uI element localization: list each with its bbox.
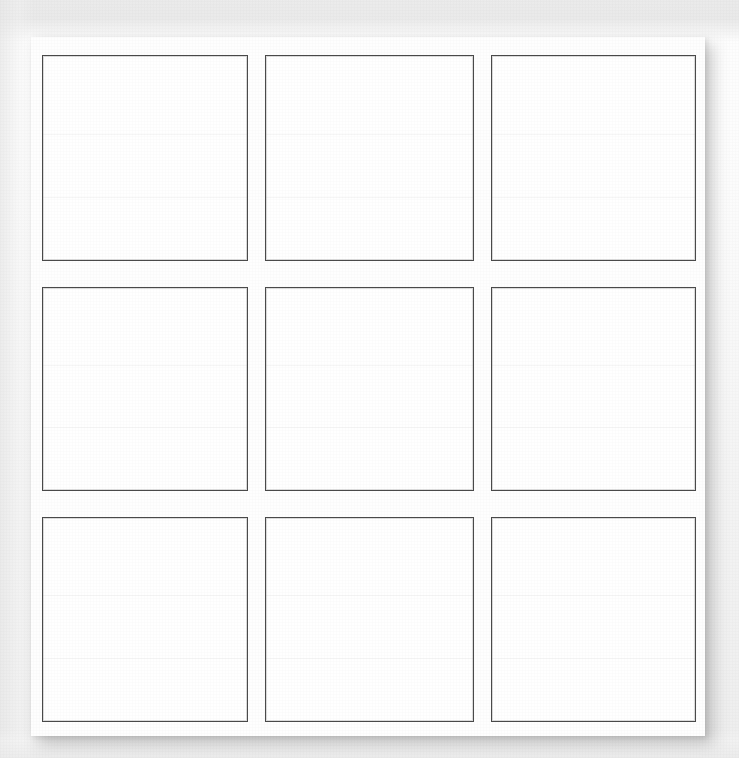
grid-cell-r1c3[interactable] xyxy=(491,55,696,261)
grid-cell-text xyxy=(272,62,467,254)
grid-3x3 xyxy=(42,55,696,722)
scanned-page: •• xyxy=(0,0,739,758)
grid-cell-r3c1[interactable] xyxy=(42,517,248,722)
grid-cell-r1c2[interactable] xyxy=(265,55,474,261)
grid-cell-r2c2[interactable] xyxy=(265,287,474,491)
grid-cell-text xyxy=(498,294,689,484)
paper-sheet xyxy=(31,37,705,736)
grid-cell-r2c1[interactable] xyxy=(42,287,248,491)
grid-cell-text xyxy=(272,524,467,715)
grid-cell-r1c1[interactable] xyxy=(42,55,248,261)
grid-cell-text xyxy=(49,62,241,254)
grid-cell-text xyxy=(49,294,241,484)
grid-cell-r2c3[interactable] xyxy=(491,287,696,491)
grid-cell-text xyxy=(498,62,689,254)
grid-cell-r3c2[interactable] xyxy=(265,517,474,722)
grid-cell-text xyxy=(272,294,467,484)
grid-cell-r3c3[interactable] xyxy=(491,517,696,722)
grid-cell-text xyxy=(498,524,689,715)
grid-cell-text xyxy=(49,524,241,715)
